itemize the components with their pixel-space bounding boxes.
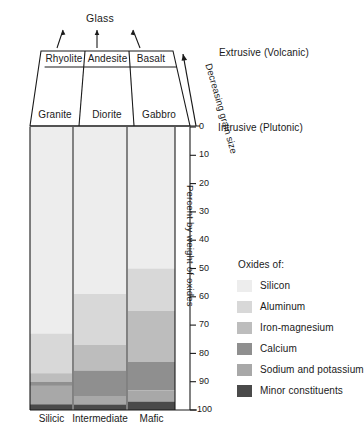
legend-item-calcium: Calcium (237, 342, 364, 355)
tick-label-40: 40 (199, 234, 209, 244)
band-silicic-sodium-potassium (30, 386, 72, 404)
rock-label-rhyolite: Rhyolite (42, 53, 86, 64)
band-mafic-minor (128, 402, 175, 410)
legend-label-silicon: Silicon (260, 280, 290, 291)
tick-label-100: 100 (197, 404, 212, 414)
legend: Oxides of: Silicon Aluminum Iron-magnesi… (237, 259, 364, 405)
band-intermediate-silicon (74, 127, 126, 294)
legend-label-aluminum: Aluminum (260, 301, 305, 312)
band-intermediate-minor (74, 405, 126, 411)
tick-label-90: 90 (199, 376, 209, 386)
rock-label-andesite: Andesite (85, 53, 130, 64)
glass-arrow-center-head (95, 30, 100, 35)
glass-arrows (57, 30, 140, 48)
legend-item-aluminum: Aluminum (237, 300, 364, 313)
legend-item-iron-magnesium: Iron-magnesium (237, 321, 364, 334)
band-silicic-aluminum (30, 334, 72, 374)
grain-size-arrow-shaft (183, 54, 196, 126)
extrusive-volcanic-note: Extrusive (Volcanic) (219, 47, 309, 58)
band-intermediate-calcium (74, 371, 126, 397)
band-mafic-calcium (128, 362, 175, 390)
legend-swatch-minor-constituents (237, 385, 252, 397)
band-silicic-iron-magnesium (30, 373, 72, 382)
rock-label-granite: Granite (31, 109, 79, 120)
band-silicic-calcium (30, 382, 72, 386)
legend-item-silicon: Silicon (237, 279, 364, 292)
rock-label-diorite: Diorite (80, 109, 134, 120)
band-intermediate-iron-magnesium (74, 345, 126, 371)
tick-label-50: 50 (199, 263, 209, 273)
tick-label-60: 60 (199, 291, 209, 301)
legend-label-calcium: Calcium (260, 343, 297, 354)
column-intermediate (74, 127, 126, 410)
band-intermediate-aluminum (74, 294, 126, 345)
tick-label-80: 80 (199, 348, 209, 358)
tick-label-70: 70 (199, 319, 209, 329)
legend-label-iron-magnesium: Iron-magnesium (260, 322, 334, 333)
legend-swatch-silicon (237, 280, 252, 292)
category-label-mafic: Mafic (128, 413, 175, 424)
grain-size-arrow-head (182, 54, 188, 61)
glass-arrow-right-shaft (133, 30, 140, 48)
rock-label-gabbro: Gabbro (134, 109, 184, 120)
legend-item-sodium-potassium: Sodium and potassium (237, 363, 364, 376)
legend-label-minor-constituents: Minor constituents (260, 385, 343, 396)
legend-swatch-sodium-potassium (237, 364, 252, 376)
legend-swatch-calcium (237, 343, 252, 355)
rock-label-basalt: Basalt (130, 53, 172, 64)
category-label-silicic: Silicic (30, 413, 73, 424)
tick-label-20: 20 (199, 178, 209, 188)
legend-swatch-aluminum (237, 301, 252, 313)
tick-label-30: 30 (199, 206, 209, 216)
band-mafic-iron-magnesium (128, 311, 175, 362)
band-silicic-silicon (30, 127, 72, 334)
column-mafic (128, 127, 175, 410)
tick-label-10: 10 (199, 149, 209, 159)
legend-swatch-iron-magnesium (237, 322, 252, 334)
tick-label-0: 0 (199, 121, 204, 131)
category-label-intermediate: Intermediate (72, 413, 128, 424)
column-silicic (30, 127, 72, 410)
composition-columns (30, 127, 175, 410)
legend-label-sodium-potassium: Sodium and potassium (260, 364, 364, 375)
band-silicic-minor (30, 404, 72, 410)
legend-item-minor-constituents: Minor constituents (237, 384, 364, 397)
band-intermediate-sodium-potassium (74, 396, 126, 405)
legend-title: Oxides of: (238, 259, 364, 270)
band-mafic-silicon (128, 127, 175, 269)
axis-title: Percent by weight of oxides (185, 185, 196, 307)
band-mafic-sodium-potassium (128, 390, 175, 401)
band-mafic-aluminum (128, 269, 175, 312)
